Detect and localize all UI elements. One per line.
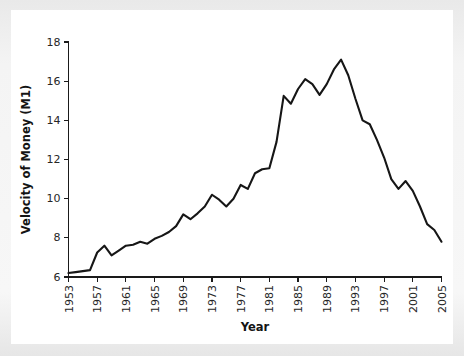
y-axis-ticks <box>64 42 69 277</box>
x-tick-label: 2005 <box>436 285 449 313</box>
x-axis-title: Year <box>240 320 270 334</box>
y-tick-label: 10 <box>47 192 61 205</box>
data-series-group <box>69 60 442 273</box>
y-axis-tick-labels: 681012141618 <box>47 36 61 284</box>
x-tick-label: 1977 <box>235 285 248 313</box>
x-tick-label: 1965 <box>149 285 162 313</box>
y-tick-label: 18 <box>47 36 61 49</box>
y-tick-label: 16 <box>47 75 61 88</box>
x-tick-label: 1981 <box>263 285 276 313</box>
x-tick-label: 1985 <box>292 285 305 313</box>
x-tick-label: 1957 <box>91 285 104 313</box>
x-tick-label: 1993 <box>349 285 362 313</box>
x-axis-tick-labels: 1953195719611965196919731977198119851989… <box>63 285 449 313</box>
x-tick-label: 1953 <box>63 285 76 313</box>
y-tick-label: 14 <box>47 114 61 127</box>
series-line-velocity-of-money <box>69 60 442 273</box>
x-tick-label: 2001 <box>407 285 420 313</box>
y-tick-label: 6 <box>54 271 61 284</box>
line-chart-svg: 681012141618 195319571961196519691973197… <box>0 0 464 356</box>
plot-area-wrapper: 681012141618 195319571961196519691973197… <box>0 0 464 356</box>
x-tick-label: 1997 <box>378 285 391 313</box>
y-tick-label: 8 <box>54 231 61 244</box>
x-tick-label: 1969 <box>177 285 190 313</box>
y-axis-title: Velocity of Money (M1) <box>19 85 33 234</box>
x-tick-label: 1973 <box>206 285 219 313</box>
y-tick-label: 12 <box>47 153 61 166</box>
x-tick-label: 1961 <box>120 285 133 313</box>
x-axis-ticks <box>69 277 442 282</box>
chart-figure: 681012141618 195319571961196519691973197… <box>0 0 464 356</box>
x-tick-label: 1989 <box>321 285 334 313</box>
